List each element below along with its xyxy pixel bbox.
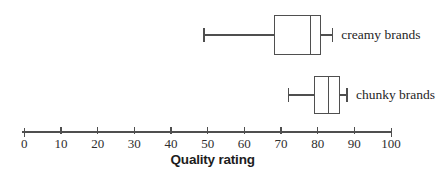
series-label: creamy brands — [341, 27, 420, 43]
axis-tick — [207, 127, 208, 134]
axis-tick — [317, 127, 318, 134]
axis-tick-label: 30 — [119, 137, 149, 151]
axis-tick — [170, 127, 171, 134]
whisker-high-line — [321, 34, 332, 35]
whisker-low-line — [204, 34, 274, 35]
axis-tick-label: 50 — [193, 137, 223, 151]
axis-tick — [354, 127, 355, 134]
axis-tick-label: 40 — [156, 137, 186, 151]
axis-tick-label: 90 — [339, 137, 369, 151]
iqr-box — [274, 15, 322, 55]
median-line — [328, 76, 329, 114]
axis-tick-label: 60 — [229, 137, 259, 151]
axis-tick — [244, 127, 245, 134]
axis-tick-label: 70 — [266, 137, 296, 151]
median-line — [310, 15, 311, 55]
whisker-high-cap — [332, 28, 333, 42]
axis-tick — [280, 127, 281, 134]
axis-tick-label: 10 — [46, 137, 76, 151]
boxplot-figure: creamy brandschunky brands 0102030405060… — [0, 0, 441, 176]
axis-tick-label: 80 — [303, 137, 333, 151]
axis-tick — [134, 127, 135, 134]
axis-tick — [97, 127, 98, 134]
axis-tick-label: 100 — [376, 137, 406, 151]
whisker-high-cap — [346, 88, 347, 102]
whisker-low-line — [288, 94, 314, 95]
axis-tick-label: 0 — [9, 137, 39, 151]
axis-tick — [60, 127, 61, 134]
axis-title: Quality rating — [148, 151, 278, 168]
series-label: chunky brands — [356, 87, 435, 103]
axis-tick-label: 20 — [83, 137, 113, 151]
iqr-box — [314, 76, 340, 114]
